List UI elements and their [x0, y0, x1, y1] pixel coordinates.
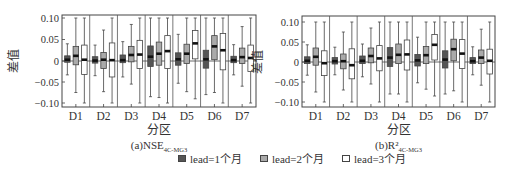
box-D5-lead1 — [415, 37, 421, 83]
y-tick-label: −0.10 — [35, 98, 59, 109]
x-axis-label: 分区 — [147, 123, 171, 137]
y-tick-label: −0.10 — [275, 97, 299, 108]
box-D3-lead2 — [129, 24, 135, 84]
x-tick-label: D3 — [364, 110, 378, 122]
box-D1-lead1 — [65, 44, 71, 75]
box-D5-lead2 — [184, 18, 190, 92]
box-D7-lead1 — [231, 45, 237, 75]
box-D1-lead3 — [322, 22, 328, 102]
box-D4-lead1 — [148, 18, 154, 97]
x-tick-label: D2 — [336, 110, 350, 122]
x-tick-label: D3 — [124, 110, 138, 122]
legend-item-lead2: lead=2个月 — [260, 150, 324, 166]
legend-swatch-icon — [260, 155, 268, 162]
box-D2-lead2 — [341, 32, 347, 90]
box-D6-lead3 — [220, 18, 226, 103]
y-tick-label: 0.05 — [281, 37, 299, 48]
y-tick-label: 0.10 — [41, 13, 59, 24]
y-tick-label: 0 — [54, 56, 59, 67]
x-tick-label: D2 — [97, 110, 111, 122]
box-D1-lead3 — [82, 18, 88, 103]
box-D2-lead1 — [332, 47, 338, 75]
box-D1-lead2 — [73, 18, 79, 93]
y-tick-label: 0.05 — [41, 34, 59, 45]
box-D2-lead3 — [349, 22, 355, 102]
box-D4-lead3 — [404, 22, 410, 102]
legend-item-lead3: lead=3个月 — [342, 150, 406, 166]
box-D1-lead1 — [305, 45, 311, 75]
box-D6-lead2 — [451, 22, 457, 91]
box-D3-lead1 — [120, 42, 126, 77]
box-D2-lead3 — [109, 18, 115, 103]
box-D3-lead1 — [360, 44, 366, 77]
box-D5-lead2 — [423, 22, 429, 89]
y-tick-label: 0 — [294, 57, 299, 68]
box-D5-lead3 — [192, 18, 198, 99]
box-D4-lead1 — [387, 22, 393, 94]
box-D6-lead3 — [459, 22, 465, 102]
panel-a-nse: 0.100.050−0.05−0.10差值D1D2D3D4D5D6D7分区(a)… — [6, 13, 256, 153]
x-tick-label: D1 — [309, 110, 323, 122]
x-tick-label: D5 — [419, 110, 433, 122]
legend-label: lead=1个月 — [190, 150, 242, 166]
y-axis-label: 差值 — [6, 49, 21, 73]
x-tick-label: D4 — [391, 110, 405, 122]
box-D7-lead3 — [487, 22, 493, 102]
x-tick-label: D1 — [69, 110, 83, 122]
panel-b-r2: 0.100.050−0.05−0.10差值D1D2D3D4D5D6D7分区(b)… — [250, 16, 495, 153]
box-D7-lead1 — [470, 47, 476, 75]
box-D4-lead2 — [396, 22, 402, 94]
box-D3-lead2 — [368, 28, 374, 84]
box-D3-lead3 — [377, 22, 383, 102]
x-axis-label: 分区 — [387, 123, 411, 137]
x-tick-label: D7 — [235, 110, 249, 122]
legend: lead=1个月 lead=2个月 lead=3个月 — [178, 150, 406, 166]
legend-swatch-icon — [178, 155, 186, 162]
box-D1-lead2 — [313, 22, 319, 92]
box-D6-lead1 — [203, 18, 209, 95]
legend-item-lead1: lead=1个月 — [178, 150, 242, 166]
x-tick-label: D7 — [474, 110, 488, 122]
y-tick-label: −0.05 — [275, 77, 299, 88]
y-tick-label: −0.05 — [35, 77, 59, 88]
box-D6-lead2 — [212, 18, 218, 93]
x-tick-label: D4 — [152, 110, 166, 122]
box-D4-lead3 — [165, 18, 171, 103]
box-D3-lead3 — [137, 18, 143, 103]
x-tick-label: D6 — [207, 110, 221, 122]
box-D2-lead2 — [101, 30, 107, 92]
box-D4-lead2 — [156, 18, 162, 98]
x-tick-label: D6 — [447, 110, 461, 122]
box-D5-lead1 — [175, 34, 181, 83]
y-tick-label: 0.10 — [281, 17, 299, 28]
box-D6-lead1 — [442, 22, 448, 94]
legend-label: lead=2个月 — [272, 150, 324, 166]
box-D5-lead3 — [432, 22, 438, 96]
legend-swatch-icon — [342, 155, 350, 162]
box-D7-lead2 — [239, 27, 245, 87]
x-tick-label: D5 — [180, 110, 194, 122]
y-axis-label: 差值 — [250, 50, 265, 74]
box-D7-lead2 — [478, 29, 484, 85]
box-D2-lead1 — [92, 45, 98, 76]
legend-label: lead=3个月 — [354, 150, 406, 166]
